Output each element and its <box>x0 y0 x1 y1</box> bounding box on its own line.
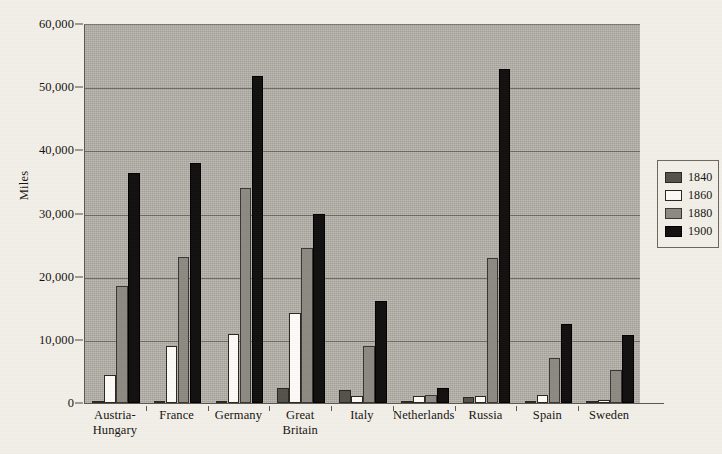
bar <box>190 163 202 403</box>
x-axis-tick-label: France <box>146 408 208 423</box>
legend-swatch-icon <box>665 208 682 219</box>
bar <box>425 395 437 403</box>
bar <box>128 173 140 403</box>
bar-group <box>579 25 641 403</box>
bar <box>104 375 116 403</box>
legend-item[interactable]: 1860 <box>665 186 712 204</box>
legend-item[interactable]: 1840 <box>665 168 712 186</box>
bar <box>499 69 511 403</box>
x-axis-tick-label: Germany <box>208 408 270 423</box>
legend: 1840186018801900 <box>657 160 719 248</box>
legend-swatch-icon <box>665 172 682 183</box>
x-axis-tick-label: Sweden <box>578 408 640 423</box>
legend-item-label: 1840 <box>688 170 712 185</box>
bar <box>622 335 634 403</box>
bar <box>363 346 375 403</box>
y-axis-tick-mark <box>75 24 83 25</box>
legend-swatch-icon <box>665 190 682 201</box>
bar-group <box>394 25 456 403</box>
bar <box>437 388 449 403</box>
x-axis-tick-label: Netherlands <box>393 408 455 423</box>
bar <box>252 76 264 403</box>
y-axis-tick-mark <box>75 213 83 214</box>
bar <box>339 390 351 403</box>
x-axis-tick-label: Russia <box>455 408 517 423</box>
bar-group <box>517 25 579 403</box>
x-axis-tick-label: Italy <box>331 408 393 423</box>
legend-item-label: 1880 <box>688 206 712 221</box>
x-axis-tick-label: GreatBritain <box>269 408 331 437</box>
y-axis-tick-mark <box>75 403 83 404</box>
bar <box>240 188 252 403</box>
bar-group <box>270 25 332 403</box>
y-axis-tick-mark <box>75 150 83 151</box>
bar <box>166 346 178 403</box>
bar <box>413 396 425 403</box>
legend-item-label: 1860 <box>688 188 712 203</box>
bar <box>178 257 190 403</box>
bar <box>116 286 128 403</box>
y-axis-tick-mark <box>75 339 83 340</box>
bar <box>313 214 325 403</box>
bar <box>561 324 573 403</box>
legend-item-label: 1900 <box>688 224 712 239</box>
x-axis-tick-labels: Austria-HungaryFranceGermanyGreatBritain… <box>84 406 640 454</box>
bar <box>228 334 240 403</box>
bar-chart: Miles 010,00020,00030,00040,00050,00060,… <box>0 0 722 454</box>
bar <box>289 313 301 403</box>
x-axis-tick-label: Spain <box>516 408 578 423</box>
bar <box>549 358 561 403</box>
bar-group <box>147 25 209 403</box>
y-axis-tick-label: 10,000 <box>39 332 74 347</box>
x-axis-line <box>84 403 664 404</box>
x-axis-tick-label: Austria-Hungary <box>84 408 146 437</box>
y-axis-tick-mark <box>75 87 83 88</box>
y-axis-tick-label: 50,000 <box>39 80 74 95</box>
y-axis-tick-mark <box>75 276 83 277</box>
bar <box>537 395 549 403</box>
bar <box>277 388 289 403</box>
bar <box>351 396 363 403</box>
legend-item[interactable]: 1880 <box>665 204 712 222</box>
bar-group <box>209 25 271 403</box>
bar <box>301 248 313 403</box>
y-axis-tick-label: 40,000 <box>39 143 74 158</box>
plot-area <box>84 24 640 403</box>
legend-swatch-icon <box>665 226 682 237</box>
y-axis-tick-label: 20,000 <box>39 269 74 284</box>
y-axis-tick-label: 30,000 <box>39 206 74 221</box>
y-axis-tick-label: 60,000 <box>39 17 74 32</box>
y-axis-tick-label: 0 <box>68 396 74 411</box>
bar <box>375 301 387 403</box>
bar <box>487 258 499 403</box>
bar-group <box>456 25 518 403</box>
bar-group <box>332 25 394 403</box>
bar-group <box>85 25 147 403</box>
bar <box>475 396 487 403</box>
legend-item[interactable]: 1900 <box>665 222 712 240</box>
y-axis-tick-labels: 010,00020,00030,00040,00050,00060,000 <box>22 0 84 454</box>
bar <box>610 370 622 403</box>
